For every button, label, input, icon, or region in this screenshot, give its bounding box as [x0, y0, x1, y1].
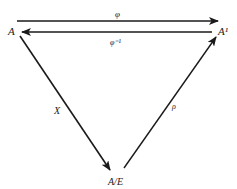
node-a-prime: A¹	[217, 25, 228, 37]
label-rho: ρ	[171, 102, 176, 111]
label-phi-inverse: φ⁻¹	[110, 38, 121, 47]
arrow-chi	[20, 36, 110, 170]
label-phi: φ	[115, 9, 120, 19]
commutative-diagram: A A¹ A/E φ φ⁻¹ X ρ	[0, 0, 237, 189]
node-quotient: A/E	[107, 176, 123, 187]
arrow-rho	[124, 37, 216, 168]
label-chi: X	[53, 105, 61, 116]
node-a: A	[7, 25, 15, 37]
